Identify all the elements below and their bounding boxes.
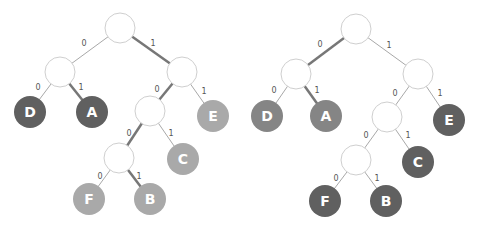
internal-node [167, 57, 197, 87]
huffman-trees-diagram: 01010101010101010101 DAECFBDAECFB [0, 0, 477, 228]
leaf-node-b: B [134, 183, 166, 215]
leaf-label: E [444, 112, 454, 128]
leaf-node-f: F [309, 185, 341, 217]
internal-node [341, 14, 371, 44]
leaf-label: C [413, 154, 423, 170]
leaf-label: D [261, 108, 273, 124]
leaf-node-e: E [433, 104, 465, 136]
leaf-node-a: A [310, 100, 342, 132]
leaf-node-d: D [14, 96, 46, 128]
edge-label: 0 [392, 89, 397, 98]
tree-left: DAECFB [14, 13, 229, 215]
edge-label: 0 [97, 172, 102, 181]
leaf-node-e: E [197, 100, 229, 132]
internal-node [281, 59, 311, 89]
internal-node [341, 145, 371, 175]
leaf-node-d: D [251, 100, 283, 132]
edge-label: 1 [136, 172, 141, 181]
leaf-label: A [87, 104, 98, 120]
leaf-label: F [320, 193, 330, 209]
internal-node [45, 57, 75, 87]
edge-label: 1 [374, 174, 379, 183]
edge-label: 0 [154, 85, 159, 94]
leaf-label: A [321, 108, 332, 124]
leaf-label: E [208, 108, 218, 124]
edge-label: 1 [314, 86, 319, 95]
edge-label: 1 [386, 41, 391, 50]
leaf-node-b: B [370, 185, 402, 217]
leaf-node-c: C [402, 146, 434, 178]
internal-node [403, 59, 433, 89]
tree-right: DAECFB [251, 14, 465, 217]
edge-label: 1 [437, 89, 442, 98]
edge-label: 1 [405, 131, 410, 140]
edge-label: 0 [81, 39, 86, 48]
leaf-label: D [24, 104, 36, 120]
internal-node [104, 143, 134, 173]
internal-node [105, 13, 135, 43]
internal-node [372, 102, 402, 132]
edge-label: 1 [168, 129, 173, 138]
edge-label: 0 [333, 174, 338, 183]
edge-label: 1 [78, 83, 83, 92]
edge-label: 0 [35, 83, 40, 92]
edge-label: 0 [271, 86, 276, 95]
leaf-label: F [84, 191, 94, 207]
leaf-node-f: F [73, 183, 105, 215]
edge-label: 0 [363, 131, 368, 140]
edge-label: 1 [201, 87, 206, 96]
leaf-node-a: A [76, 96, 108, 128]
leaf-node-c: C [167, 143, 199, 175]
internal-node [135, 96, 165, 126]
edge-label: 0 [126, 129, 131, 138]
edge-label: 1 [150, 39, 155, 48]
leaf-label: B [381, 193, 392, 209]
edge-label: 0 [317, 40, 322, 49]
leaf-label: C [178, 151, 188, 167]
leaf-label: B [145, 191, 156, 207]
